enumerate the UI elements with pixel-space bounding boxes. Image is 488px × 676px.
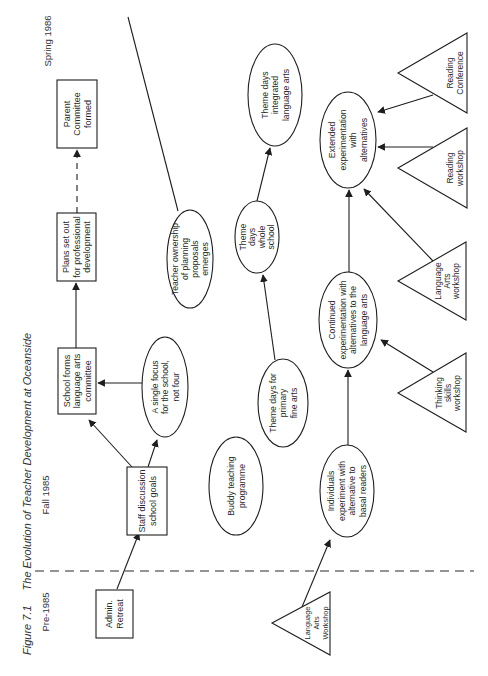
- plans-professional-development-label-line: for professional: [72, 216, 82, 278]
- edge-reading-conference-to-extended-experimentation: [378, 95, 433, 112]
- teacher-ownership-label-line: of planning: [180, 238, 190, 280]
- individuals-experiment-label-line: experiment with: [337, 461, 347, 521]
- plans-professional-development-label-line: development: [82, 221, 92, 273]
- node-parent-committee: ParentCommitteeformed: [57, 80, 97, 148]
- theme-days-primary-label-line: fine arts: [289, 388, 299, 419]
- node-individuals-experiment: Individualsexperiment withalternative to…: [320, 445, 374, 537]
- extended-experimentation-label-line: alternatives: [359, 118, 369, 162]
- admin-retreat-label-line: Retreat: [115, 599, 125, 629]
- admin-retreat-label: Admin.Retreat: [104, 599, 125, 629]
- edge-staff-discussion-to-school-forms-committee: [89, 420, 132, 467]
- theme-days-integrated-label-line: language arts: [281, 69, 291, 121]
- teacher-ownership-label-line: emerges: [200, 242, 210, 275]
- parent-committee-label-line: formed: [83, 100, 93, 128]
- language-arts-workshop-label-line: workshop: [451, 263, 461, 300]
- reading-conference-label: ReadingConference: [445, 51, 465, 95]
- edge-teacher-ownership-to-open: [128, 17, 178, 211]
- theme-days-whole-school-label-line: school: [266, 224, 276, 249]
- node-language-arts-workshop: LanguageArtsworkshop: [398, 242, 466, 320]
- buddy-teaching-label-line: programme: [237, 464, 247, 508]
- reading-conference-label-line: Conference: [455, 51, 465, 95]
- school-forms-committee-label-line: language arts: [72, 353, 82, 408]
- school-forms-committee-label: School formslanguage artscommittee: [62, 353, 93, 408]
- node-admin-retreat: Admin.Retreat: [96, 590, 133, 638]
- reading-workshop-label-line: Reading: [445, 152, 455, 184]
- school-forms-committee-label-line: committee: [83, 360, 93, 402]
- buddy-teaching-label-line: Buddy teaching: [226, 456, 236, 515]
- theme-days-integrated-label-line: integrated: [270, 76, 280, 114]
- node-staff-discussion: Staff discussionschool goals: [127, 467, 167, 535]
- figure-title: The Evolution of Teacher Development at …: [21, 333, 33, 591]
- node-theme-days-whole-school: Themedayswholeschool: [235, 201, 279, 273]
- theme-days-primary-label-line: primary: [278, 388, 288, 417]
- node-plans-professional-development: Plans set outfor professionaldevelopment: [57, 213, 96, 281]
- teacher-ownership-label-line: Teacher ownership: [170, 223, 180, 295]
- school-forms-committee-label-line: School forms: [62, 354, 72, 407]
- nodes-layer: Admin.RetreatStaff discussionschool goal…: [57, 33, 467, 655]
- single-focus-label-line: for the school,: [160, 360, 170, 414]
- individuals-experiment-label-line: Individuals: [326, 471, 336, 512]
- edge-thinking-skills-workshop-to-continued-experimentation: [381, 340, 433, 372]
- period-label-pre-1985: Pre-1985: [40, 592, 51, 631]
- continued-experimentation-label-line: Continued: [327, 300, 337, 339]
- teacher-ownership-label-line: proposals: [190, 240, 200, 277]
- theme-days-integrated-label: Theme daysintegratedlanguage arts: [260, 69, 291, 121]
- extended-experimentation-label-line: with: [348, 132, 358, 149]
- single-focus-label-line: A single focus: [150, 360, 160, 413]
- node-theme-days-integrated: Theme daysintegratedlanguage arts: [248, 44, 302, 146]
- theme-days-whole-school-label: Themedayswholeschool: [238, 223, 277, 250]
- staff-discussion-label-line: school goals: [148, 475, 158, 526]
- theme-days-whole-school-label-line: days: [247, 228, 257, 246]
- continued-experimentation-label-line: language arts: [359, 294, 369, 346]
- continued-experimentation-label-line: experimentation with: [338, 280, 348, 359]
- staff-discussion-label-line: Staff discussion: [137, 470, 147, 533]
- parent-committee-label-line: Parent: [62, 100, 72, 127]
- node-continued-experimentation: Continuedexperimentation withalternative…: [319, 272, 377, 368]
- staff-discussion-label: Staff discussionschool goals: [137, 470, 158, 533]
- individuals-experiment-label-line: basal readers: [358, 465, 368, 517]
- node-school-forms-committee: School formslanguage artscommittee: [58, 348, 96, 414]
- node-teacher-ownership: Teacher ownershipof planningproposalseme…: [167, 210, 213, 308]
- edge-language-arts-workshop-to-extended-experimentation: [364, 189, 433, 261]
- reading-conference-label-line: Reading: [445, 57, 455, 89]
- extended-experimentation-label-line: experimentation: [338, 109, 348, 170]
- edge-theme-days-primary-to-theme-days-whole-school: [263, 275, 275, 360]
- parent-committee-label-line: Committee: [72, 92, 82, 136]
- node-language-arts-workshop-pre: LanguageArtsWorkshop: [272, 592, 330, 655]
- continued-experimentation-label-line: alternatives to the: [348, 286, 358, 354]
- node-reading-workshop: Readingworkshop: [398, 128, 467, 208]
- language-arts-workshop-pre-label-line: Workshop: [320, 606, 329, 639]
- edge-admin-retreat-to-staff-discussion: [117, 533, 139, 589]
- node-theme-days-primary: Theme days forprimaryfine arts: [258, 359, 308, 447]
- extended-experimentation-label-line: Extended: [327, 122, 337, 159]
- theme-days-whole-school-label-line: Theme: [238, 223, 248, 250]
- figure-number: Figure 7.1: [21, 605, 33, 655]
- teacher-development-diagram: Figure 7.1 The Evolution of Teacher Deve…: [0, 0, 488, 676]
- admin-retreat-label-line: Admin.: [104, 600, 114, 628]
- node-reading-conference: ReadingConference: [398, 33, 467, 113]
- edge-staff-discussion-to-single-focus: [148, 440, 157, 467]
- individuals-experiment-label-line: alternative to: [347, 466, 357, 515]
- buddy-teaching-label: Buddy teachingprogramme: [226, 456, 247, 515]
- theme-days-integrated-label-line: Theme days: [260, 71, 270, 118]
- reading-workshop-label-line: workshop: [455, 150, 465, 187]
- node-thinking-skills-workshop: Thinkingskillsworkshop: [398, 353, 466, 432]
- figure-caption: Figure 7.1 The Evolution of Teacher Deve…: [21, 333, 33, 655]
- thinking-skills-workshop-label-line: workshop: [452, 375, 462, 412]
- single-focus-label-line: not four: [171, 372, 181, 401]
- node-buddy-teaching: Buddy teachingprogramme: [209, 437, 263, 535]
- node-extended-experimentation: Extendedexperimentationwithalternatives: [320, 92, 376, 188]
- theme-days-primary-label-line: Theme days for: [268, 373, 278, 433]
- plans-professional-development-label: Plans set outfor professionaldevelopment: [61, 216, 92, 278]
- period-label-fall-1985: Fall 1985: [40, 475, 51, 514]
- theme-days-whole-school-label-line: whole: [257, 226, 267, 250]
- node-single-focus: A single focusfor the school,not four: [142, 337, 188, 437]
- plans-professional-development-label-line: Plans set out: [61, 220, 71, 273]
- reading-workshop-label: Readingworkshop: [445, 150, 465, 187]
- edge-theme-days-whole-school-to-theme-days-integrated: [257, 148, 270, 201]
- period-label-spring-1986: Spring 1986: [42, 15, 53, 66]
